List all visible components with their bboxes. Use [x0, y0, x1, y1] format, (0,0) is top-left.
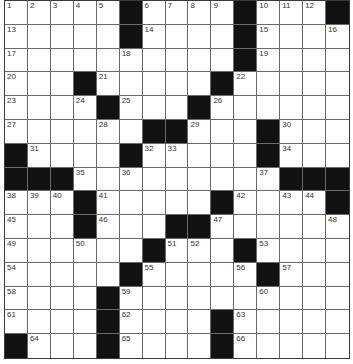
answer-cell[interactable]: 9: [211, 1, 234, 25]
answer-cell[interactable]: 37: [257, 168, 280, 192]
answer-cell[interactable]: 20: [5, 72, 28, 96]
answer-cell[interactable]: [166, 96, 189, 120]
answer-cell[interactable]: [188, 144, 211, 168]
answer-cell[interactable]: [143, 310, 166, 334]
answer-cell[interactable]: [280, 334, 303, 358]
answer-cell[interactable]: [188, 72, 211, 96]
answer-cell[interactable]: [188, 168, 211, 192]
answer-cell[interactable]: 38: [5, 191, 28, 215]
answer-cell[interactable]: [97, 49, 120, 73]
answer-cell[interactable]: [120, 191, 143, 215]
answer-cell[interactable]: 5: [97, 1, 120, 25]
answer-cell[interactable]: [303, 287, 326, 311]
answer-cell[interactable]: [51, 120, 74, 144]
answer-cell[interactable]: [166, 191, 189, 215]
answer-cell[interactable]: [143, 49, 166, 73]
answer-cell[interactable]: [143, 287, 166, 311]
answer-cell[interactable]: 49: [5, 239, 28, 263]
answer-cell[interactable]: 10: [257, 1, 280, 25]
answer-cell[interactable]: [166, 263, 189, 287]
answer-cell[interactable]: [166, 25, 189, 49]
answer-cell[interactable]: [211, 287, 234, 311]
answer-cell[interactable]: [74, 49, 97, 73]
answer-cell[interactable]: [51, 96, 74, 120]
answer-cell[interactable]: [120, 120, 143, 144]
answer-cell[interactable]: 47: [211, 215, 234, 239]
answer-cell[interactable]: 18: [120, 49, 143, 73]
answer-cell[interactable]: 53: [257, 239, 280, 263]
answer-cell[interactable]: [143, 215, 166, 239]
answer-cell[interactable]: [74, 334, 97, 358]
answer-cell[interactable]: [166, 49, 189, 73]
answer-cell[interactable]: [120, 215, 143, 239]
answer-cell[interactable]: [326, 96, 349, 120]
answer-cell[interactable]: 35: [74, 168, 97, 192]
answer-cell[interactable]: [166, 310, 189, 334]
answer-cell[interactable]: [280, 287, 303, 311]
answer-cell[interactable]: [326, 287, 349, 311]
answer-cell[interactable]: 29: [188, 120, 211, 144]
answer-cell[interactable]: [326, 334, 349, 358]
answer-cell[interactable]: [326, 49, 349, 73]
answer-cell[interactable]: [28, 25, 51, 49]
answer-cell[interactable]: 14: [143, 25, 166, 49]
answer-cell[interactable]: 65: [120, 334, 143, 358]
answer-cell[interactable]: 17: [5, 49, 28, 73]
answer-cell[interactable]: [280, 239, 303, 263]
answer-cell[interactable]: 8: [188, 1, 211, 25]
answer-cell[interactable]: 33: [166, 144, 189, 168]
answer-cell[interactable]: [280, 96, 303, 120]
answer-cell[interactable]: [303, 215, 326, 239]
answer-cell[interactable]: [51, 310, 74, 334]
answer-cell[interactable]: [211, 120, 234, 144]
answer-cell[interactable]: [74, 287, 97, 311]
answer-cell[interactable]: [303, 334, 326, 358]
answer-cell[interactable]: 50: [74, 239, 97, 263]
answer-cell[interactable]: 48: [326, 215, 349, 239]
answer-cell[interactable]: [28, 239, 51, 263]
answer-cell[interactable]: [326, 72, 349, 96]
answer-cell[interactable]: 32: [143, 144, 166, 168]
answer-cell[interactable]: [143, 72, 166, 96]
answer-cell[interactable]: 28: [97, 120, 120, 144]
answer-cell[interactable]: [326, 120, 349, 144]
answer-cell[interactable]: [257, 215, 280, 239]
answer-cell[interactable]: 21: [97, 72, 120, 96]
answer-cell[interactable]: [188, 263, 211, 287]
answer-cell[interactable]: [211, 263, 234, 287]
answer-cell[interactable]: [74, 144, 97, 168]
answer-cell[interactable]: 60: [257, 287, 280, 311]
answer-cell[interactable]: 30: [280, 120, 303, 144]
answer-cell[interactable]: [211, 144, 234, 168]
answer-cell[interactable]: [166, 287, 189, 311]
answer-cell[interactable]: [257, 72, 280, 96]
answer-cell[interactable]: [326, 144, 349, 168]
answer-cell[interactable]: [303, 120, 326, 144]
answer-cell[interactable]: [303, 310, 326, 334]
answer-cell[interactable]: 63: [234, 310, 257, 334]
answer-cell[interactable]: [166, 168, 189, 192]
answer-cell[interactable]: 39: [28, 191, 51, 215]
answer-cell[interactable]: [280, 215, 303, 239]
answer-cell[interactable]: [188, 287, 211, 311]
answer-cell[interactable]: [97, 263, 120, 287]
answer-cell[interactable]: [280, 25, 303, 49]
answer-cell[interactable]: [303, 263, 326, 287]
answer-cell[interactable]: 34: [280, 144, 303, 168]
answer-cell[interactable]: 25: [120, 96, 143, 120]
answer-cell[interactable]: [74, 263, 97, 287]
answer-cell[interactable]: [143, 334, 166, 358]
answer-cell[interactable]: [303, 144, 326, 168]
answer-cell[interactable]: 24: [74, 96, 97, 120]
answer-cell[interactable]: [280, 49, 303, 73]
answer-cell[interactable]: [51, 49, 74, 73]
answer-cell[interactable]: 11: [280, 1, 303, 25]
answer-cell[interactable]: 12: [303, 1, 326, 25]
answer-cell[interactable]: 66: [234, 334, 257, 358]
answer-cell[interactable]: 64: [28, 334, 51, 358]
answer-cell[interactable]: [280, 72, 303, 96]
answer-cell[interactable]: [74, 120, 97, 144]
answer-cell[interactable]: 31: [28, 144, 51, 168]
answer-cell[interactable]: 52: [188, 239, 211, 263]
answer-cell[interactable]: 2: [28, 1, 51, 25]
